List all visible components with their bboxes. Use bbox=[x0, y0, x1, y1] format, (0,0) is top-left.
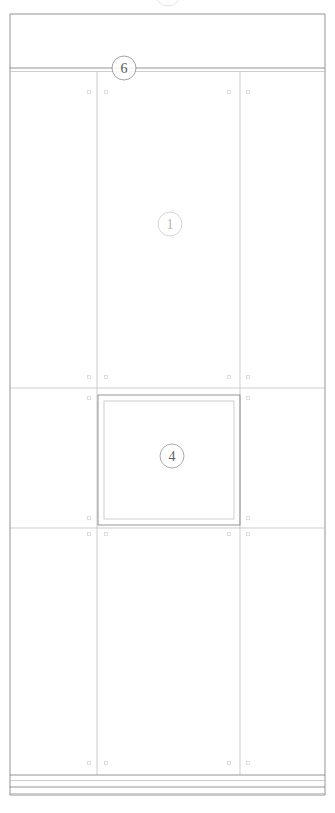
callout-6[interactable]: 6 bbox=[112, 56, 136, 80]
elevation-drawing-svg: 614 bbox=[0, 0, 335, 813]
callout-4-label: 4 bbox=[169, 449, 176, 464]
elevation-drawing-canvas: 614 bbox=[0, 0, 335, 813]
callout-1-label: 1 bbox=[167, 217, 174, 232]
callout-1[interactable]: 1 bbox=[158, 212, 182, 236]
callout-6-label: 6 bbox=[121, 61, 128, 76]
callout-4[interactable]: 4 bbox=[160, 444, 184, 468]
drawing-background bbox=[0, 0, 335, 813]
